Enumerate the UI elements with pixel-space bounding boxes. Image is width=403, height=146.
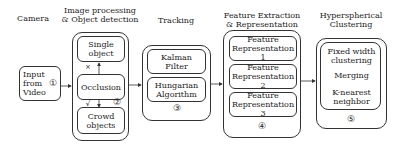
flow-arrows	[0, 0, 403, 146]
